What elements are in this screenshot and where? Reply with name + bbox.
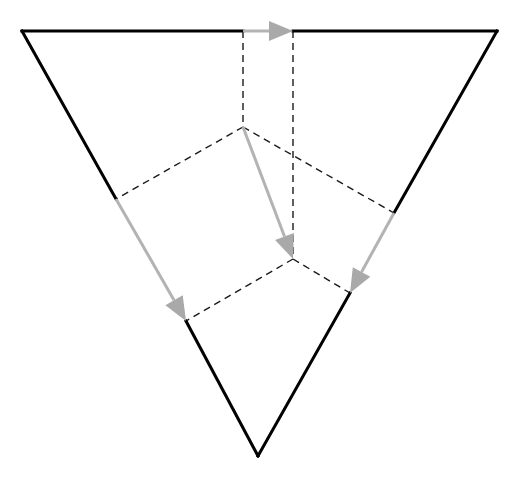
fold-lower-right xyxy=(293,259,350,293)
folding-diagram xyxy=(0,0,517,486)
arrow-shaft xyxy=(362,213,394,272)
arrow-shaft xyxy=(116,199,174,300)
arrowhead-icon xyxy=(350,267,370,293)
arrow-left xyxy=(116,199,186,321)
solid-edges xyxy=(22,31,497,456)
fold-lower-left xyxy=(186,259,293,321)
arrowhead-icon xyxy=(275,233,294,259)
fold-left-diagonal xyxy=(116,127,243,199)
arrowhead-icon xyxy=(269,21,293,41)
bottom-right-edge xyxy=(258,293,350,456)
left-outer-edge xyxy=(22,31,116,199)
arrow-center xyxy=(243,127,294,259)
arrow-right xyxy=(350,213,394,293)
bottom-left-edge xyxy=(186,321,258,456)
right-outer-edge xyxy=(394,31,497,213)
fold-upper-right xyxy=(243,127,394,213)
arrowhead-icon xyxy=(165,295,186,321)
arrow-top xyxy=(243,21,293,41)
arrow-shaft xyxy=(243,127,284,237)
movement-arrows xyxy=(116,21,394,321)
